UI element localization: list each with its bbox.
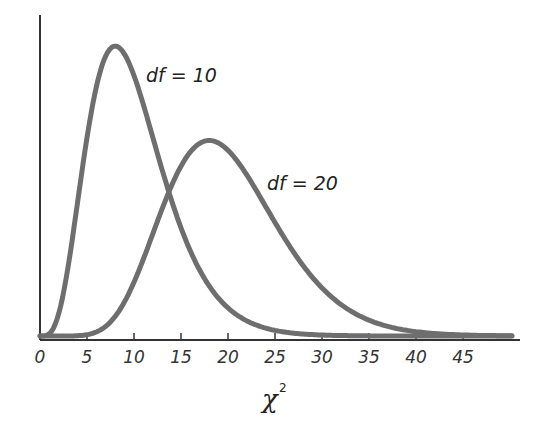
chi-square-chart: 051015202530354045 df = 10 df = 20 χ 2 bbox=[0, 0, 544, 427]
x-tick-label: 0 bbox=[35, 347, 46, 367]
x-tick-label: 35 bbox=[358, 347, 380, 367]
x-tick-label: 40 bbox=[405, 347, 427, 367]
x-axis-title-superscript: 2 bbox=[279, 381, 287, 395]
x-tick-label: 15 bbox=[170, 347, 192, 367]
x-axis-title: χ bbox=[260, 384, 280, 414]
label-df-20: df = 20 bbox=[267, 172, 338, 194]
x-axis-tick-labels: 051015202530354045 bbox=[35, 347, 474, 367]
x-tick-label: 20 bbox=[217, 347, 239, 367]
x-tick-label: 25 bbox=[264, 347, 286, 367]
x-tick-label: 45 bbox=[452, 347, 474, 367]
x-tick-label: 10 bbox=[123, 347, 145, 367]
x-tick-label: 5 bbox=[82, 347, 93, 367]
label-df-10: df = 10 bbox=[146, 64, 217, 86]
x-tick-label: 30 bbox=[311, 347, 333, 367]
curve-df-20 bbox=[40, 141, 512, 337]
